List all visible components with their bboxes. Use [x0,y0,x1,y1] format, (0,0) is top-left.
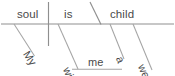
word-soul: soul [17,9,39,20]
word-child: child [110,9,134,20]
sentence-diagram: soul is child My within me a weaned [0,0,175,76]
preposition-line-within [58,24,78,69]
predicate-nominative-divider [90,2,101,25]
article-line-a [110,24,124,59]
word-is: is [64,9,73,20]
word-me: me [88,57,103,68]
